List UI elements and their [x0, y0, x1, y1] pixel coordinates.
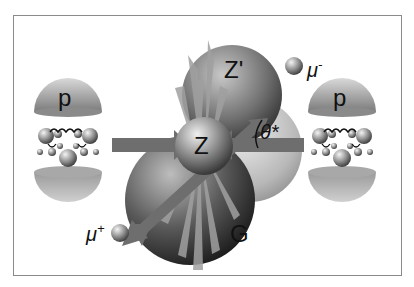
mu-plus-ball: [111, 224, 129, 242]
mu-minus-charge: -: [318, 57, 322, 72]
label-theta-star: θ*: [260, 122, 279, 142]
mu-plus-charge: +: [97, 221, 105, 236]
label-proton-left: p: [58, 86, 71, 110]
label-mu-minus: μ-: [307, 58, 322, 80]
label-z-prime: Z': [224, 58, 243, 82]
mu-plus-symbol: μ: [86, 223, 97, 245]
mu-minus-ball: [285, 57, 303, 75]
label-z: Z: [194, 134, 209, 158]
label-mu-plus: μ+: [86, 222, 105, 244]
label-graviton: G: [230, 222, 249, 246]
label-proton-right: p: [333, 86, 346, 110]
mu-minus-symbol: μ: [307, 59, 318, 81]
